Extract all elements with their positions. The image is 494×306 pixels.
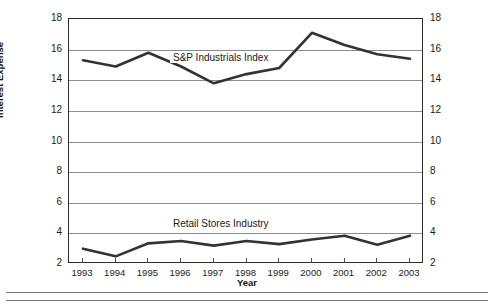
x-tick-mark-1998 (246, 258, 247, 263)
x-tick-mark-1995 (147, 258, 148, 263)
y-tick-label-right-18: 18 (430, 13, 452, 23)
y-tick-label-left-10: 10 (40, 136, 62, 146)
x-tick-mark-1994 (115, 258, 116, 263)
x-tick-mark-2003 (409, 258, 410, 263)
x-tick-mark-2000 (311, 258, 312, 263)
y-tick-label-left-4: 4 (40, 227, 62, 237)
x-tick-mark-1993 (82, 258, 83, 263)
y-axis-title: Interest Expense (0, 42, 5, 118)
y-tick-label-right-10: 10 (430, 136, 452, 146)
y-tick-label-right-8: 8 (430, 166, 452, 176)
y-tick-label-right-16: 16 (430, 44, 452, 54)
series-label-sp-industrials-index: S&P Industrials Index (170, 52, 271, 63)
y-tick-label-left-18: 18 (40, 13, 62, 23)
line-retail-stores-industry (83, 236, 410, 257)
y-tick-label-left-8: 8 (40, 166, 62, 176)
y-tick-label-right-6: 6 (430, 197, 452, 207)
x-tick-mark-2001 (344, 258, 345, 263)
y-tick-label-left-6: 6 (40, 197, 62, 207)
chart-root: Interest Expense 18161412108642 18161412… (0, 0, 494, 306)
footer-rule-bottom (6, 300, 488, 301)
y-tick-label-right-14: 14 (430, 74, 452, 84)
y-tick-label-left-2: 2 (40, 258, 62, 268)
series-label-retail-stores-industry: Retail Stores Industry (170, 218, 272, 229)
x-tick-mark-2002 (376, 258, 377, 263)
footer-rule-top (6, 292, 488, 293)
x-tick-mark-1997 (213, 258, 214, 263)
y-tick-label-left-12: 12 (40, 105, 62, 115)
y-tick-label-left-16: 16 (40, 44, 62, 54)
y-tick-label-left-14: 14 (40, 74, 62, 84)
y-tick-label-right-2: 2 (430, 258, 452, 268)
x-axis-title: Year (0, 277, 494, 288)
y-tick-label-right-4: 4 (430, 227, 452, 237)
x-tick-mark-1996 (180, 258, 181, 263)
y-tick-label-right-12: 12 (430, 105, 452, 115)
x-tick-mark-1999 (278, 258, 279, 263)
